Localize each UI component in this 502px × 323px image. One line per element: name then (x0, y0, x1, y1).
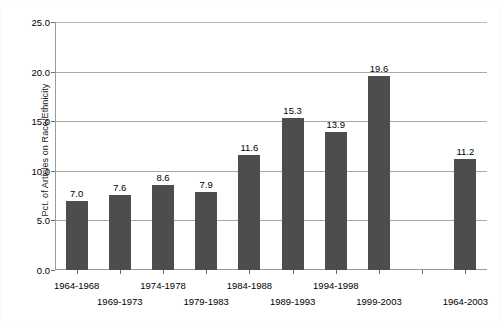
bar[interactable] (325, 132, 347, 270)
y-tick-label: 10.0 (6, 165, 50, 176)
bar-slot: 19.6 (357, 22, 400, 270)
y-tick-label: 0.0 (6, 265, 50, 276)
bar[interactable] (454, 159, 476, 270)
bar[interactable] (368, 76, 390, 270)
y-tick-label: 15.0 (6, 116, 50, 127)
bar-value-label: 11.2 (456, 146, 474, 157)
y-tick-label: 25.0 (6, 17, 50, 28)
bar-slot: 15.3 (271, 22, 314, 270)
x-tick-label: 1984-1988 (227, 280, 272, 291)
bar-value-label: 13.9 (327, 119, 346, 130)
x-tick-label: 1999-2003 (356, 296, 401, 307)
bar[interactable] (109, 195, 131, 270)
x-tick-mark (293, 270, 294, 274)
bar-slot: 11.2 (444, 22, 487, 270)
bar-value-label: 7.6 (113, 182, 126, 193)
bar[interactable] (195, 192, 217, 270)
x-tick-mark (336, 270, 337, 274)
bar[interactable] (238, 155, 260, 270)
x-tick-label: 1974-1978 (140, 280, 185, 291)
bar-slot (401, 22, 444, 270)
x-tick-label: 1969-1973 (97, 296, 142, 307)
bar[interactable] (282, 118, 304, 270)
bar-chart: Pct. of Articles on Race/Ethnicity 0.05.… (0, 0, 502, 323)
x-tick-label: 1964-2003 (443, 296, 488, 307)
x-tick-label: 1989-1993 (270, 296, 315, 307)
bar-value-label: 7.0 (70, 188, 83, 199)
x-tick-mark (163, 270, 164, 274)
bars-layer: 7.07.68.67.911.615.313.919.611.2 (55, 22, 487, 270)
x-tick-mark (465, 270, 466, 274)
bar-value-label: 7.9 (200, 179, 213, 190)
bar-slot: 7.0 (55, 22, 98, 270)
bar-value-label: 8.6 (156, 172, 169, 183)
x-tick-mark (379, 270, 380, 274)
bar-slot: 7.6 (98, 22, 141, 270)
y-tick-label: 20.0 (6, 66, 50, 77)
x-tick-mark (120, 270, 121, 274)
y-tick-mark (51, 270, 55, 271)
x-tick-mark (206, 270, 207, 274)
bar-slot: 11.6 (228, 22, 271, 270)
x-tick-label: 1994-1998 (313, 280, 358, 291)
x-tick-mark (77, 270, 78, 274)
x-tick-label: 1964-1968 (54, 280, 99, 291)
bar-value-label: 19.6 (370, 63, 389, 74)
bar[interactable] (66, 201, 88, 270)
bar-value-label: 11.6 (240, 142, 258, 153)
bar-slot: 13.9 (314, 22, 357, 270)
x-tick-label: 1979-1983 (183, 296, 228, 307)
bar[interactable] (152, 185, 174, 270)
x-tick-mark (422, 270, 423, 274)
x-tick-mark (249, 270, 250, 274)
bar-value-label: 15.3 (283, 105, 302, 116)
bar-slot: 8.6 (141, 22, 184, 270)
bar-slot: 7.9 (185, 22, 228, 270)
y-tick-label: 5.0 (6, 215, 50, 226)
